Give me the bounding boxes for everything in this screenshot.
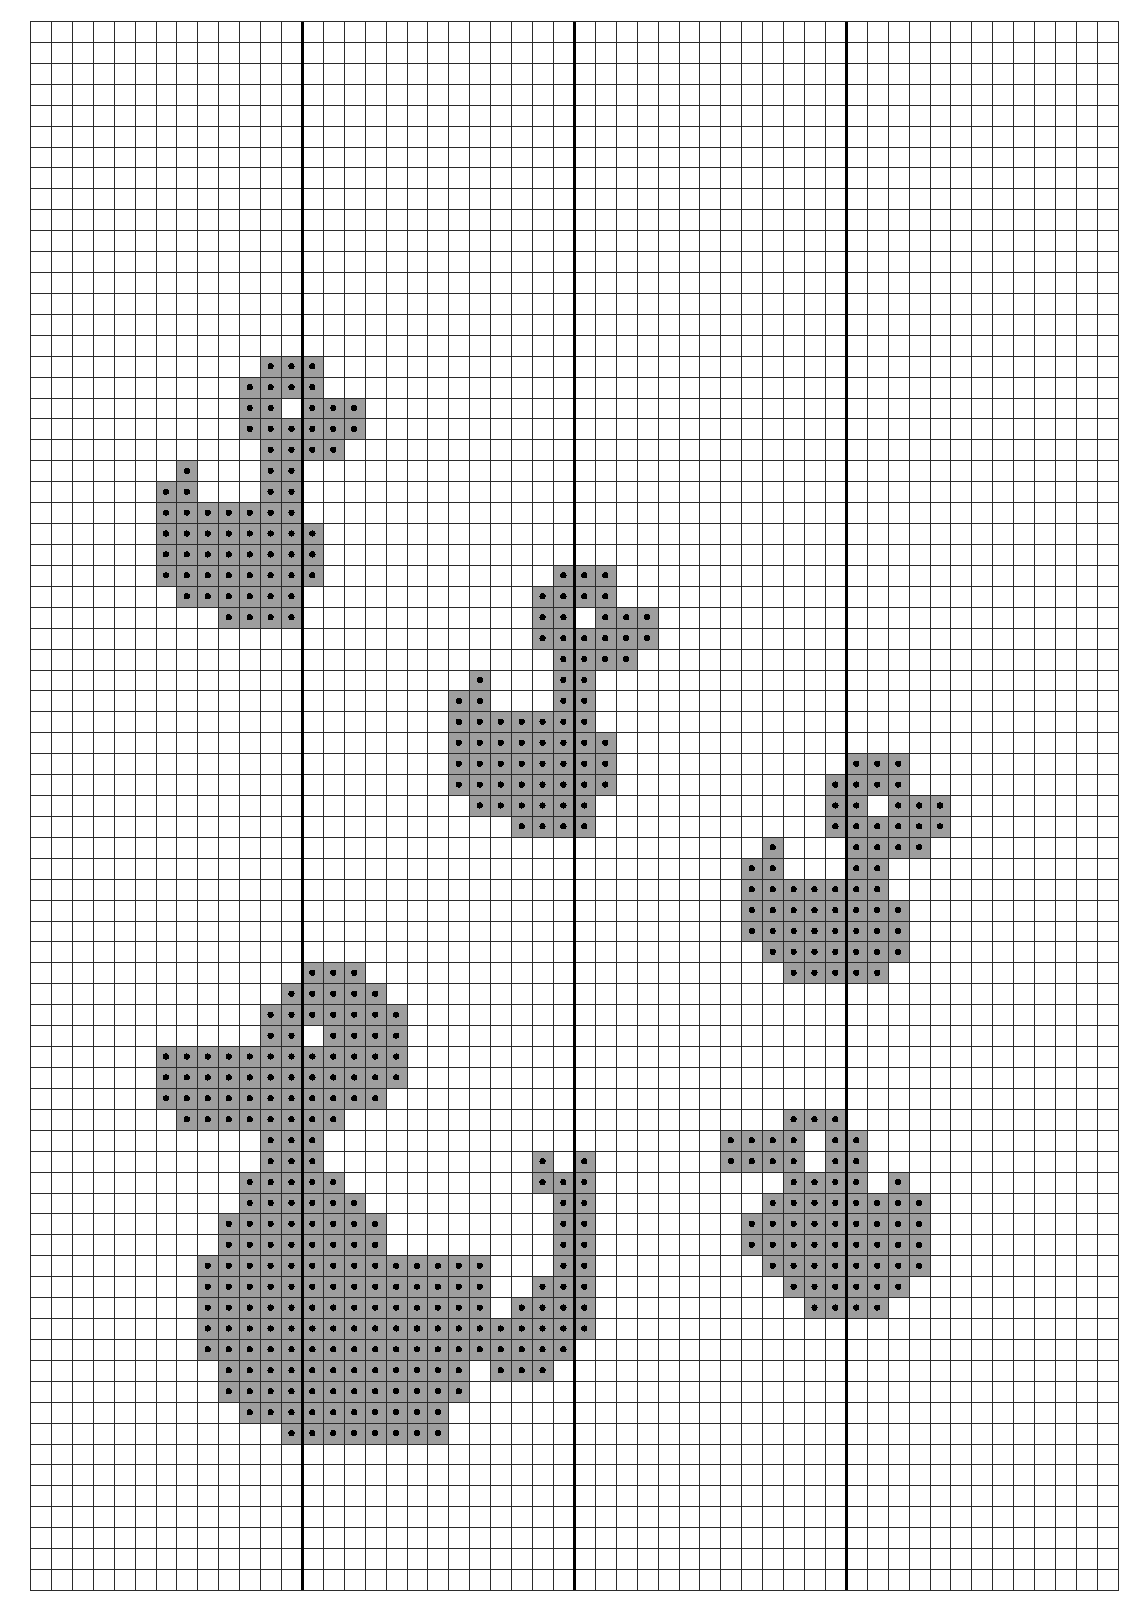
stitch-cell[interactable] bbox=[407, 1318, 428, 1339]
stitch-cell[interactable] bbox=[783, 1276, 804, 1297]
stitch-cell[interactable] bbox=[239, 586, 260, 607]
stitch-cell[interactable] bbox=[176, 565, 197, 586]
stitch-cell[interactable] bbox=[846, 1151, 867, 1172]
stitch-cell[interactable] bbox=[553, 1255, 574, 1276]
stitch-cell[interactable] bbox=[825, 921, 846, 942]
stitch-cell[interactable] bbox=[281, 481, 302, 502]
stitch-cell[interactable] bbox=[574, 1318, 595, 1339]
stitch-cell[interactable] bbox=[218, 1360, 239, 1381]
stitch-cell[interactable] bbox=[574, 1172, 595, 1193]
stitch-cell[interactable] bbox=[846, 962, 867, 983]
stitch-cell[interactable] bbox=[448, 1255, 469, 1276]
stitch-cell[interactable] bbox=[344, 1297, 365, 1318]
stitch-cell[interactable] bbox=[469, 1276, 490, 1297]
stitch-cell[interactable] bbox=[344, 1360, 365, 1381]
stitch-cell[interactable] bbox=[281, 1172, 302, 1193]
stitch-cell[interactable] bbox=[469, 753, 490, 774]
stitch-cell[interactable] bbox=[762, 879, 783, 900]
stitch-cell[interactable] bbox=[260, 1255, 281, 1276]
stitch-cell[interactable] bbox=[156, 1046, 177, 1067]
stitch-cell[interactable] bbox=[804, 1213, 825, 1234]
stitch-cell[interactable] bbox=[281, 1213, 302, 1234]
stitch-cell[interactable] bbox=[846, 1172, 867, 1193]
stitch-cell[interactable] bbox=[427, 1381, 448, 1402]
stitch-cell[interactable] bbox=[448, 1276, 469, 1297]
stitch-cell[interactable] bbox=[888, 921, 909, 942]
stitch-cell[interactable] bbox=[532, 1172, 553, 1193]
stitch-cell[interactable] bbox=[176, 523, 197, 544]
stitch-cell[interactable] bbox=[260, 1360, 281, 1381]
stitch-cell[interactable] bbox=[302, 962, 323, 983]
stitch-cell[interactable] bbox=[469, 670, 490, 691]
stitch-cell[interactable] bbox=[260, 1339, 281, 1360]
stitch-cell[interactable] bbox=[386, 1025, 407, 1046]
stitch-cell[interactable] bbox=[595, 607, 616, 628]
stitch-cell[interactable] bbox=[260, 1193, 281, 1214]
stitch-cell[interactable] bbox=[323, 1172, 344, 1193]
stitch-cell[interactable] bbox=[532, 628, 553, 649]
stitch-cell[interactable] bbox=[825, 1276, 846, 1297]
stitch-cell[interactable] bbox=[825, 962, 846, 983]
stitch-cell[interactable] bbox=[239, 607, 260, 628]
stitch-cell[interactable] bbox=[448, 1318, 469, 1339]
stitch-cell[interactable] bbox=[595, 586, 616, 607]
stitch-cell[interactable] bbox=[637, 607, 658, 628]
stitch-cell[interactable] bbox=[741, 1234, 762, 1255]
stitch-cell[interactable] bbox=[825, 900, 846, 921]
stitch-cell[interactable] bbox=[218, 1109, 239, 1130]
stitch-cell[interactable] bbox=[344, 1381, 365, 1402]
stitch-cell[interactable] bbox=[574, 1276, 595, 1297]
stitch-cell[interactable] bbox=[281, 356, 302, 377]
stitch-cell[interactable] bbox=[553, 628, 574, 649]
stitch-cell[interactable] bbox=[490, 1318, 511, 1339]
stitch-cell[interactable] bbox=[574, 1234, 595, 1255]
stitch-cell[interactable] bbox=[469, 1339, 490, 1360]
stitch-cell[interactable] bbox=[867, 941, 888, 962]
stitch-cell[interactable] bbox=[553, 690, 574, 711]
stitch-cell[interactable] bbox=[365, 1025, 386, 1046]
stitch-cell[interactable] bbox=[218, 1381, 239, 1402]
stitch-cell[interactable] bbox=[574, 690, 595, 711]
stitch-cell[interactable] bbox=[553, 795, 574, 816]
stitch-cell[interactable] bbox=[553, 1213, 574, 1234]
stitch-cell[interactable] bbox=[365, 1402, 386, 1423]
stitch-cell[interactable] bbox=[867, 1276, 888, 1297]
stitch-cell[interactable] bbox=[511, 774, 532, 795]
stitch-cell[interactable] bbox=[302, 523, 323, 544]
stitch-cell[interactable] bbox=[762, 1130, 783, 1151]
stitch-cell[interactable] bbox=[239, 523, 260, 544]
stitch-cell[interactable] bbox=[260, 377, 281, 398]
stitch-cell[interactable] bbox=[239, 418, 260, 439]
stitch-cell[interactable] bbox=[365, 983, 386, 1004]
stitch-cell[interactable] bbox=[176, 460, 197, 481]
stitch-cell[interactable] bbox=[218, 565, 239, 586]
stitch-cell[interactable] bbox=[574, 816, 595, 837]
stitch-cell[interactable] bbox=[595, 649, 616, 670]
stitch-cell[interactable] bbox=[218, 502, 239, 523]
stitch-cell[interactable] bbox=[239, 1402, 260, 1423]
stitch-cell[interactable] bbox=[302, 1088, 323, 1109]
stitch-cell[interactable] bbox=[867, 1193, 888, 1214]
stitch-cell[interactable] bbox=[156, 502, 177, 523]
stitch-cell[interactable] bbox=[762, 1255, 783, 1276]
stitch-cell[interactable] bbox=[469, 774, 490, 795]
stitch-cell[interactable] bbox=[825, 774, 846, 795]
stitch-cell[interactable] bbox=[888, 1213, 909, 1234]
stitch-cell[interactable] bbox=[783, 941, 804, 962]
stitch-cell[interactable] bbox=[846, 921, 867, 942]
stitch-cell[interactable] bbox=[302, 1276, 323, 1297]
stitch-cell[interactable] bbox=[448, 1360, 469, 1381]
stitch-cell[interactable] bbox=[197, 1255, 218, 1276]
stitch-cell[interactable] bbox=[762, 1151, 783, 1172]
stitch-cell[interactable] bbox=[574, 732, 595, 753]
stitch-cell[interactable] bbox=[260, 439, 281, 460]
stitch-cell[interactable] bbox=[909, 1213, 930, 1234]
stitch-cell[interactable] bbox=[260, 1172, 281, 1193]
stitch-cell[interactable] bbox=[741, 1151, 762, 1172]
stitch-cell[interactable] bbox=[804, 1297, 825, 1318]
stitch-cell[interactable] bbox=[783, 900, 804, 921]
stitch-cell[interactable] bbox=[260, 1130, 281, 1151]
stitch-cell[interactable] bbox=[574, 1213, 595, 1234]
stitch-cell[interactable] bbox=[302, 1402, 323, 1423]
stitch-cell[interactable] bbox=[574, 753, 595, 774]
